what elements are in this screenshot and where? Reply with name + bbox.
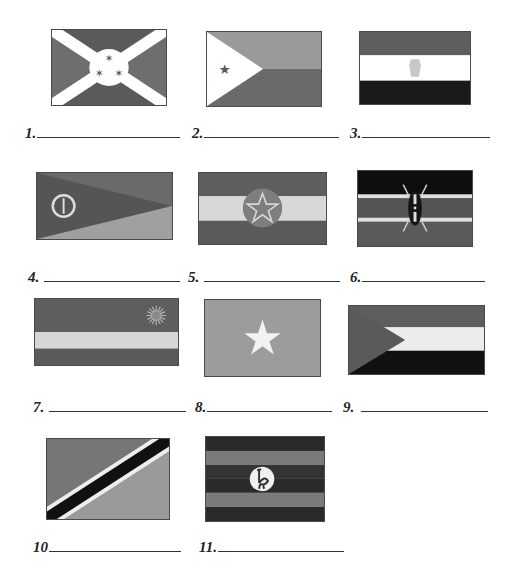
answer-field-10[interactable]: 10 [33,540,181,555]
flag-kenya [357,170,473,247]
flag-somalia [204,299,321,377]
flag-djibouti: ★ [206,31,322,107]
flag-eritrea-icon [37,173,172,239]
answer-line[interactable] [362,137,490,138]
answer-field-9[interactable]: 9. [343,400,488,415]
answer-line[interactable] [49,411,186,412]
flag-egypt-icon [360,32,470,104]
flag-sudan-icon [349,306,484,374]
svg-text:✶: ✶ [95,67,104,80]
flag-tanzania-icon [47,439,169,519]
answer-field-11[interactable]: 11. [199,540,344,555]
flag-ethiopia [198,172,327,245]
question-number: 4. [28,270,39,285]
answer-field-6[interactable]: 6. [350,270,485,285]
question-number: 6. [350,270,361,285]
flag-burundi-icon: ✶ ✶ ✶ [52,30,166,105]
question-number: 3. [350,126,361,141]
flag-somalia-icon [205,300,320,376]
flag-eritrea [36,172,173,240]
answer-line[interactable] [44,281,180,282]
flag-rwanda [34,298,179,366]
question-number: 5. [188,270,199,285]
answer-line[interactable] [49,551,181,552]
answer-line[interactable] [207,411,332,412]
flag-djibouti-icon: ★ [207,32,321,106]
question-number: 2. [192,126,203,141]
answer-field-2[interactable]: 2. [192,126,339,141]
answer-line[interactable] [362,281,485,282]
flag-rwanda-icon [35,299,178,365]
answer-field-4[interactable]: 4. [28,270,180,285]
svg-text:✶: ✶ [114,67,123,80]
answer-field-7[interactable]: 7. [33,400,186,415]
answer-line[interactable] [204,137,339,138]
flag-uganda-icon [206,437,324,521]
answer-field-3[interactable]: 3. [350,126,490,141]
question-number: 7. [33,400,44,415]
answer-line[interactable] [218,551,344,552]
question-number: 1. [25,126,36,141]
answer-field-8[interactable]: 8. [195,400,332,415]
flag-ethiopia-icon [199,173,326,244]
svg-text:★: ★ [219,61,231,77]
svg-text:✶: ✶ [104,52,113,65]
flag-tanzania [46,438,170,520]
flag-kenya-icon [358,171,472,246]
question-number: 8. [195,400,206,415]
answer-line[interactable] [361,411,488,412]
question-number: 11. [199,540,217,555]
flag-uganda [205,436,325,522]
question-number: 9. [343,400,354,415]
answer-field-5[interactable]: 5. [188,270,340,285]
flag-burundi: ✶ ✶ ✶ [51,29,167,106]
flag-sudan [348,305,485,375]
question-number: 10 [33,540,48,555]
flag-egypt [359,31,471,105]
answer-line[interactable] [37,137,180,138]
answer-line[interactable] [204,281,340,282]
answer-field-1[interactable]: 1. [25,126,180,141]
